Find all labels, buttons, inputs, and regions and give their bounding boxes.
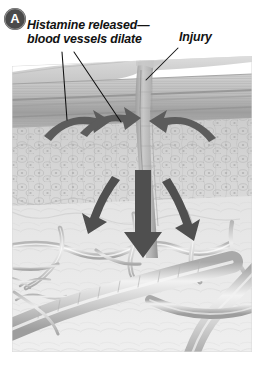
tissue-block bbox=[0, 48, 265, 366]
panel-letter-text: A bbox=[10, 11, 20, 26]
label-histamine-line1: Histamine released— bbox=[27, 18, 150, 32]
figure-panel-a: Histamine released— blood vessels dilate… bbox=[0, 0, 265, 368]
label-injury: Injury bbox=[179, 30, 213, 44]
panel-letter-badge: A bbox=[4, 8, 26, 30]
label-histamine-line2: blood vessels dilate bbox=[27, 32, 142, 46]
skin-cross-section-illustration: Histamine released— blood vessels dilate… bbox=[0, 0, 265, 368]
